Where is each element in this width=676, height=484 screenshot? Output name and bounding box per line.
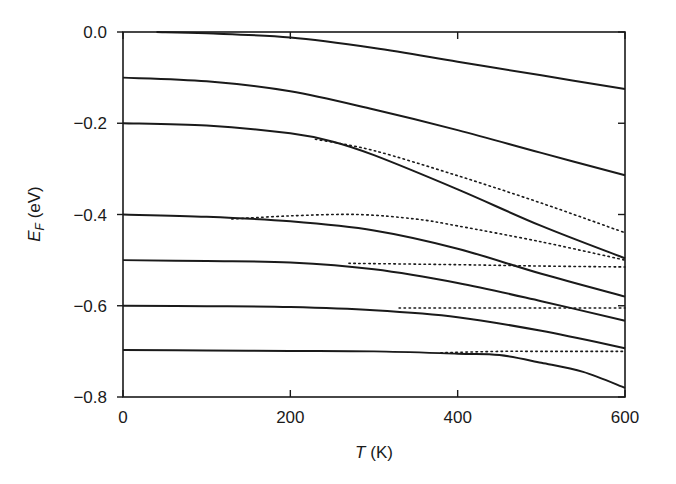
x-tick-label: 400: [443, 408, 471, 427]
solid-series-line: [123, 260, 625, 321]
solid-series-line: [123, 123, 625, 258]
y-axis-title: EF (eV): [25, 186, 47, 242]
x-axis: 0200400600: [118, 32, 639, 427]
x-tick-label: 600: [611, 408, 639, 427]
x-tick-label: 0: [118, 408, 127, 427]
plot-series: [123, 32, 625, 388]
dotted-series-line: [315, 139, 625, 233]
solid-series-line: [123, 350, 625, 388]
y-tick-label: −0.8: [73, 388, 107, 407]
x-axis-title: T (K): [355, 443, 393, 462]
solid-series-line: [156, 32, 625, 89]
plot-frame: [123, 32, 625, 397]
y-tick-label: −0.6: [73, 297, 107, 316]
dotted-series-line: [349, 263, 625, 267]
y-tick-label: −0.2: [73, 114, 107, 133]
y-tick-label: −0.4: [73, 206, 107, 225]
solid-series-line: [123, 78, 625, 176]
x-tick-label: 200: [276, 408, 304, 427]
solid-series-line: [123, 306, 625, 348]
y-tick-label: 0.0: [83, 23, 107, 42]
dotted-series-line: [441, 351, 625, 352]
chart-figure: 0200400600 0.0−0.2−0.4−0.6−0.8 T (K) EF …: [0, 0, 676, 484]
solid-series-line: [123, 215, 625, 297]
